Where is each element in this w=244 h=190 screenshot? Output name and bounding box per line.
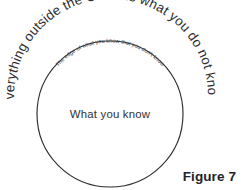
outer-arc-text: Everything outside the Circle is what yo… (0, 0, 220, 99)
inner-arc-textpath: The edge of what you know that you don't… (54, 38, 166, 68)
outer-arc-textpath: Everything outside the Circle is what yo… (0, 0, 220, 99)
figure-container: Everything outside the Circle is what yo… (0, 0, 244, 190)
inner-arc-text: The edge of what you know that you don't… (54, 38, 166, 68)
figure-caption: Figure 7 (183, 169, 236, 184)
circle-center-label: What you know (70, 108, 151, 120)
diagram-canvas: Everything outside the Circle is what yo… (0, 0, 244, 190)
